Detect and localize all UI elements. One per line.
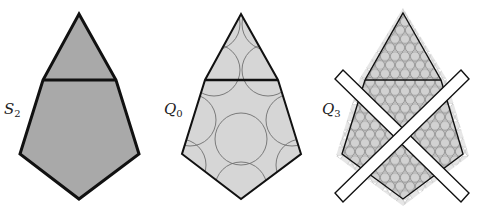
q3-label: Q3 [322, 100, 341, 119]
q0-label: Q0 [164, 100, 183, 119]
panel-q0: Q0 [154, 0, 328, 214]
figure: S2 Q0 Q3 [0, 0, 478, 219]
q0-polygon-fill [182, 14, 301, 199]
s2-polygon [20, 14, 139, 199]
panel-q3: Q3 [322, 0, 478, 219]
panel-s2: S2 [4, 14, 139, 199]
s2-label: S2 [4, 100, 21, 119]
